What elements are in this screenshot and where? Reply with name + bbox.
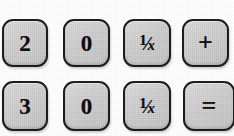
fraction-denominator: x: [148, 39, 155, 53]
reciprocal-icon: 1 ⁄ x: [139, 97, 155, 116]
digit-zero-glyph: 0: [81, 32, 93, 55]
digit-three-glyph: 3: [19, 95, 31, 118]
equals-icon: =: [202, 93, 217, 119]
calculator-keypad: 2 0 1 ⁄ x + 3 0 1 ⁄ x: [0, 0, 234, 136]
key-reciprocal-top[interactable]: 1 ⁄ x: [123, 19, 171, 67]
plus-icon: +: [198, 30, 213, 56]
key-3[interactable]: 3: [2, 81, 48, 131]
key-2[interactable]: 2: [2, 19, 48, 67]
key-0-bottom[interactable]: 0: [63, 81, 110, 131]
key-plus[interactable]: +: [182, 19, 229, 67]
key-reciprocal-bottom[interactable]: 1 ⁄ x: [123, 81, 171, 131]
fraction-denominator: x: [148, 102, 155, 116]
reciprocal-icon: 1 ⁄ x: [139, 34, 155, 53]
digit-two-glyph: 2: [19, 32, 31, 55]
key-equals[interactable]: =: [183, 81, 234, 131]
digit-zero-glyph: 0: [81, 95, 93, 118]
key-0-top[interactable]: 0: [63, 19, 110, 67]
calculator-keypad-screenshot: 2 0 1 ⁄ x + 3 0 1 ⁄ x: [0, 0, 234, 136]
